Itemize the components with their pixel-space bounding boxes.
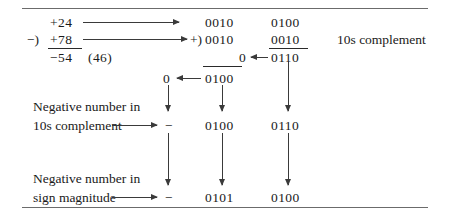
down-arrow-low-upper — [288, 62, 289, 111]
binary-high-sum-bar — [203, 66, 242, 67]
down-arrow-sign-upper — [168, 85, 169, 111]
carry-row-value: 0100 — [205, 72, 234, 86]
carry-arrow-high-to-sign — [177, 78, 201, 79]
binary-row3-carry: 0 — [239, 51, 246, 65]
binary-plus-sign: +) — [190, 33, 202, 47]
sign-magnitude-pointer-arrow — [112, 197, 157, 198]
sign-magnitude-sign: − — [165, 191, 173, 205]
top-rule — [22, 8, 428, 9]
down-arrow-high-upper — [222, 85, 223, 111]
tens-complement-label-line2: 10s complement — [33, 119, 122, 133]
binary-low-sum-bar — [269, 48, 308, 49]
tens-complement-pointer-arrow — [112, 125, 157, 126]
worked-example-figure: +24 −) +78 −54 (46) +) 0010 0100 0010 00… — [0, 0, 450, 222]
sign-magnitude-high: 0101 — [205, 191, 234, 205]
binary-row1-high: 0010 — [205, 16, 234, 30]
binary-row3-low: 0110 — [271, 51, 299, 65]
decimal-subtrahend: +78 — [50, 33, 72, 47]
tens-complement-note: 10s complement — [337, 33, 426, 47]
carry-row-carry: 0 — [163, 72, 170, 86]
tens-complement-high: 0100 — [205, 119, 234, 133]
map-arrow-augend — [83, 22, 179, 23]
map-arrow-subtrahend — [83, 39, 187, 40]
tens-complement-label-line1: Negative number in — [33, 100, 140, 114]
down-arrow-high-lower — [222, 133, 223, 185]
bottom-rule — [22, 207, 428, 208]
decimal-subtract-sign: −) — [27, 33, 39, 47]
down-arrow-sign-lower — [168, 133, 169, 185]
carry-arrow-low-to-high — [251, 57, 268, 58]
tens-complement-low: 0110 — [271, 119, 299, 133]
down-arrow-low-lower — [288, 133, 289, 185]
decimal-augend: +24 — [50, 16, 72, 30]
binary-row2-high: 0010 — [205, 33, 234, 47]
binary-row1-low: 0100 — [271, 16, 300, 30]
decimal-sum-bar — [48, 48, 82, 49]
sign-magnitude-label-line1: Negative number in — [33, 172, 140, 186]
binary-row2-low: 0010 — [271, 33, 300, 47]
decimal-result-alt: (46) — [88, 51, 112, 65]
sign-magnitude-label-line2: sign magnitude — [33, 191, 116, 205]
tens-complement-sign: − — [165, 119, 173, 133]
sign-magnitude-low: 0100 — [271, 191, 300, 205]
decimal-result: −54 — [50, 51, 72, 65]
